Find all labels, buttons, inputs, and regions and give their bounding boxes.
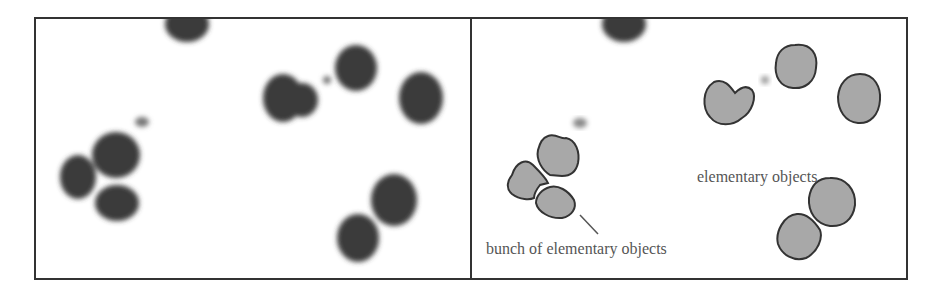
original-image-panel <box>36 19 470 278</box>
bunch-pointer-line <box>580 215 598 234</box>
original-blobs <box>36 19 470 278</box>
bunch-label: bunch of elementary objects <box>486 240 667 258</box>
elementary-objects-label: elementary objects <box>697 168 817 186</box>
